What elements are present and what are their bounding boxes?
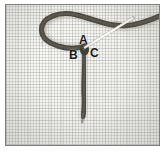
embroidery-illustration (6, 5, 159, 145)
thread-shadow (44, 15, 159, 117)
photograph-frame: A B C (5, 4, 160, 146)
thread-vertical-stem (82, 47, 85, 122)
point-label-a: A (79, 34, 88, 46)
point-label-b: B (69, 49, 78, 61)
point-label-c: C (90, 47, 99, 59)
